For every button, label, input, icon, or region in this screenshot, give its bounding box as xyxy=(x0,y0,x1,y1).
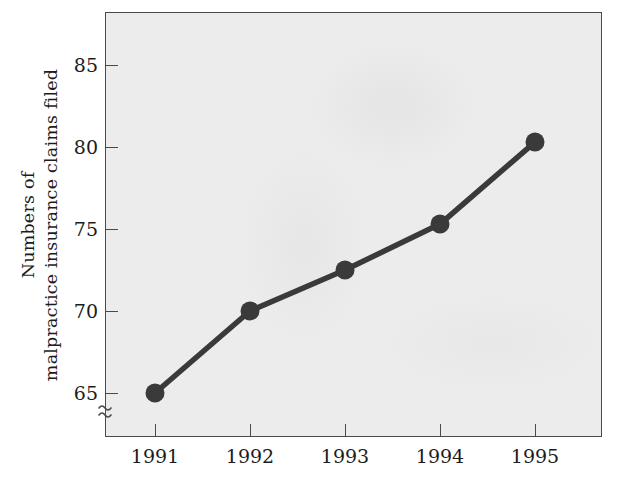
y-axis-title: Numbers of malpractice insurance claims … xyxy=(0,12,100,437)
x-tick-1991 xyxy=(155,424,156,437)
y-axis-title-line-2: malpractice insurance claims filed xyxy=(41,68,61,380)
x-tick-1995 xyxy=(535,424,536,437)
x-tick-label-1991: 1991 xyxy=(115,447,195,466)
x-tick-1993 xyxy=(345,424,346,437)
x-tick-label-1994: 1994 xyxy=(400,447,480,466)
y-axis-title-line-1: Numbers of xyxy=(18,171,38,278)
x-tick-label-1992: 1992 xyxy=(210,447,290,466)
x-tick-label-1995: 1995 xyxy=(495,447,575,466)
x-tick-1994 xyxy=(440,424,441,437)
x-tick-1992 xyxy=(250,424,251,437)
chart-figure: 6570758085 19911992199319941995 Numbers … xyxy=(0,0,620,486)
x-axis-ticks xyxy=(105,12,602,437)
axis-break-icon xyxy=(97,400,115,426)
x-tick-label-1993: 1993 xyxy=(305,447,385,466)
